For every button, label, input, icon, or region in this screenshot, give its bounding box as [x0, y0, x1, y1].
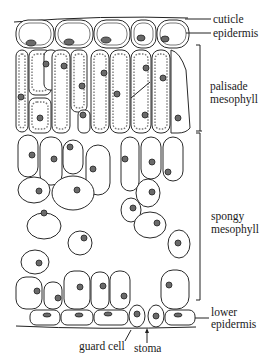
- label-epidermis: epidermis: [213, 27, 258, 39]
- label-spongy-line1: spongy: [211, 210, 244, 222]
- palisade-mesophyll: [16, 50, 190, 133]
- spongy-mesophyll: [16, 135, 190, 309]
- label-guard-cell: guard cell: [79, 340, 125, 352]
- label-lower-epidermis-line2: epidermis: [211, 318, 256, 330]
- label-cuticle: cuticle: [213, 13, 244, 25]
- upper-epidermis: [16, 20, 189, 48]
- label-lower-epidermis-line1: lower: [211, 306, 237, 318]
- label-spongy-line2: mesophyll: [211, 223, 259, 235]
- label-palisade-line2: mesophyll: [210, 93, 258, 105]
- label-palisade-line1: palisade: [210, 80, 248, 92]
- label-stoma: stoma: [134, 342, 161, 354]
